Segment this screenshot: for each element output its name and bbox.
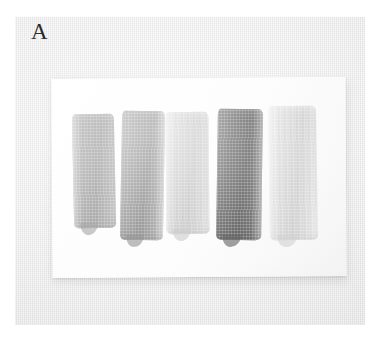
swatch-1	[72, 114, 116, 229]
swatch-2	[120, 111, 165, 241]
swatch-5-paint	[268, 106, 318, 241]
swatch-3	[165, 112, 209, 234]
swatch-5	[268, 106, 318, 241]
swatch-1-paint	[72, 114, 116, 229]
panel-label: A	[31, 20, 48, 43]
swatch-3-paint	[165, 112, 209, 234]
swatch-2-paint	[120, 111, 165, 241]
swatch-4	[216, 109, 263, 241]
swatch-4-paint	[216, 109, 263, 241]
paint-swatch-photograph	[15, 17, 365, 325]
figure-panel-a: A	[0, 0, 387, 340]
